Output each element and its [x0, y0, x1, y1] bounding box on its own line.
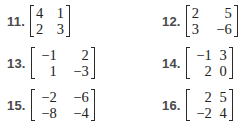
right-bracket [91, 47, 95, 79]
matrix: −1 2 1 −3 [31, 46, 95, 80]
problem-13: 13. −1 2 1 −3 [7, 44, 95, 82]
matrix-entry: 0 [215, 63, 227, 79]
problem-15: 15. −2 −6 −8 −4 [7, 86, 95, 124]
problem-number: 16. [162, 98, 181, 113]
matrix-grid: −1 2 1 −3 [35, 47, 91, 79]
problem-number: 13. [7, 56, 26, 71]
matrix-entry: 5 [215, 89, 227, 105]
matrix-entry: 4 [36, 5, 46, 21]
right-bracket [229, 89, 233, 121]
matrix-entry: −2 [37, 89, 57, 105]
matrix-entry: 1 [50, 5, 64, 21]
matrix-entry: −1 [192, 47, 212, 63]
matrix-entry: −2 [192, 105, 212, 121]
problem-16: 16. 2 5 −2 4 [162, 86, 233, 124]
problem-number: 15. [7, 98, 26, 113]
matrix: 2 5 −2 4 [186, 88, 233, 122]
matrix-entry: 2 [192, 5, 202, 21]
right-bracket [91, 89, 95, 121]
matrix-entry: −3 [59, 63, 89, 79]
matrix: 4 1 2 3 [30, 4, 70, 38]
matrix-entry: 2 [59, 47, 89, 63]
problem-12: 12. 2 5 3 −6 [162, 2, 238, 40]
problem-11: 11. 4 1 2 3 [7, 2, 70, 40]
matrix-entry: −6 [206, 21, 232, 37]
matrix: 2 5 3 −6 [186, 4, 238, 38]
matrix-entry: 2 [36, 21, 46, 37]
right-bracket [229, 47, 233, 79]
matrix-entry: −1 [37, 47, 57, 63]
right-bracket [66, 5, 70, 37]
problem-number: 12. [162, 14, 181, 29]
matrix-entry: 3 [50, 21, 64, 37]
problem-number: 11. [7, 14, 25, 29]
matrix-entry: 2 [192, 63, 212, 79]
matrix-grid: 2 5 −2 4 [190, 89, 229, 121]
problem-number: 14. [162, 56, 181, 71]
matrix-entry: 4 [215, 105, 227, 121]
matrix-entry: 5 [206, 5, 232, 21]
right-bracket [234, 5, 238, 37]
problem-14: 14. −1 3 2 0 [162, 44, 233, 82]
matrix-grid: −1 3 2 0 [190, 47, 229, 79]
matrix-entry: 1 [37, 63, 57, 79]
matrix-entry: 3 [192, 21, 202, 37]
matrix: −1 3 2 0 [186, 46, 233, 80]
matrix-entry: −4 [63, 105, 89, 121]
matrix: −2 −6 −8 −4 [31, 88, 95, 122]
matrix-entry: −6 [63, 89, 89, 105]
matrix-grid: 4 1 2 3 [34, 5, 66, 37]
matrix-entry: −8 [37, 105, 57, 121]
matrix-entry: 3 [215, 47, 227, 63]
matrix-grid: 2 5 3 −6 [190, 5, 234, 37]
matrix-grid: −2 −6 −8 −4 [35, 89, 91, 121]
matrix-entry: 2 [192, 89, 212, 105]
